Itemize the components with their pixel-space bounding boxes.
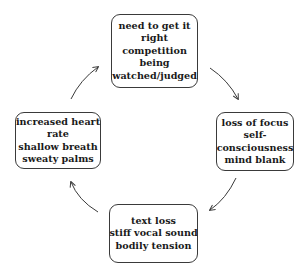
node-top-line: being bbox=[112, 57, 197, 69]
node-bottom-line: bodily tension bbox=[109, 240, 197, 252]
node-bottom-line: text loss bbox=[109, 215, 197, 227]
node-left-line: rate bbox=[16, 128, 100, 140]
node-left-text: increased heart rate shallow breath swea… bbox=[16, 116, 100, 166]
arrow-bottom-to-left bbox=[71, 182, 98, 212]
node-bottom: text loss stiff vocal sound bodily tensi… bbox=[109, 204, 198, 263]
arrow-top-to-right bbox=[210, 68, 238, 99]
node-bottom-text: text loss stiff vocal sound bodily tensi… bbox=[109, 215, 197, 252]
node-left-line: sweaty palms bbox=[16, 153, 100, 165]
node-top-text: need to get it right competition being w… bbox=[112, 20, 197, 82]
node-bottom-line: stiff vocal sound bbox=[109, 227, 197, 239]
node-left-line: shallow breath bbox=[16, 141, 100, 153]
node-top-line: competition bbox=[112, 45, 197, 57]
node-right-line: self- bbox=[217, 129, 294, 141]
node-right-line: mind blank bbox=[217, 154, 294, 166]
node-top-line: watched/judged bbox=[112, 70, 197, 82]
arrow-left-to-top bbox=[71, 67, 98, 99]
node-left: increased heart rate shallow breath swea… bbox=[15, 112, 101, 169]
node-right: loss of focus self- consciousness mind b… bbox=[216, 112, 294, 171]
node-right-line: consciousness bbox=[217, 142, 294, 154]
node-left-line: increased heart bbox=[16, 116, 100, 128]
node-top-line: need to get it bbox=[112, 20, 197, 32]
node-right-text: loss of focus self- consciousness mind b… bbox=[217, 117, 294, 167]
node-top-line: right bbox=[112, 32, 197, 44]
arrow-right-to-bottom bbox=[210, 178, 236, 210]
node-top: need to get it right competition being w… bbox=[111, 14, 198, 88]
node-right-line: loss of focus bbox=[217, 117, 294, 129]
cycle-diagram: need to get it right competition being w… bbox=[0, 0, 304, 269]
